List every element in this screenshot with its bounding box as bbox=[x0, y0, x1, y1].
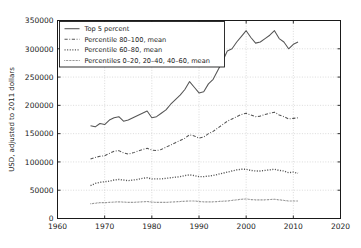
legend: Top 5 percentPercentile 80–100, meanPerc… bbox=[60, 22, 225, 68]
legend-label-2: Percentile 60–80, mean bbox=[85, 46, 163, 54]
y-tick-labels: 0500001000001500002000002500003000003500… bbox=[25, 16, 54, 223]
y-tick-label: 350000 bbox=[25, 16, 54, 25]
y-tick-label: 250000 bbox=[25, 73, 54, 82]
x-tick-label: 1980 bbox=[142, 222, 161, 231]
x-tick-label: 1970 bbox=[95, 222, 114, 231]
chart-canvas: 1960197019801990200020102020 05000010000… bbox=[0, 0, 361, 248]
legend-label-1: Percentile 80–100, mean bbox=[85, 36, 167, 44]
y-axis-label-text: USD, adjusted to 2011 dollars bbox=[8, 67, 16, 172]
y-tick-label: 300000 bbox=[25, 45, 54, 54]
y-tick-label: 50000 bbox=[30, 186, 54, 195]
x-tick-label: 2010 bbox=[284, 222, 303, 231]
x-tick-label: 2020 bbox=[331, 222, 350, 231]
legend-label-0: Top 5 percent bbox=[84, 25, 130, 33]
legend-label-3: Percentiles 0–20, 20–40, 40–60, mean bbox=[85, 57, 210, 65]
x-tick-labels: 1960197019801990200020102020 bbox=[48, 222, 350, 231]
x-tick-label: 1990 bbox=[189, 222, 208, 231]
x-tick-label: 2000 bbox=[237, 222, 256, 231]
figure: 1960197019801990200020102020 05000010000… bbox=[0, 0, 361, 248]
series-line-3 bbox=[91, 199, 299, 204]
series-line-2 bbox=[91, 169, 299, 185]
y-tick-label: 200000 bbox=[25, 101, 54, 110]
y-axis-title: USD, adjusted to 2011 dollars bbox=[8, 67, 16, 172]
y-tick-label: 150000 bbox=[25, 129, 54, 138]
y-tick-label: 100000 bbox=[25, 158, 54, 167]
y-tick-label: 0 bbox=[49, 214, 54, 223]
